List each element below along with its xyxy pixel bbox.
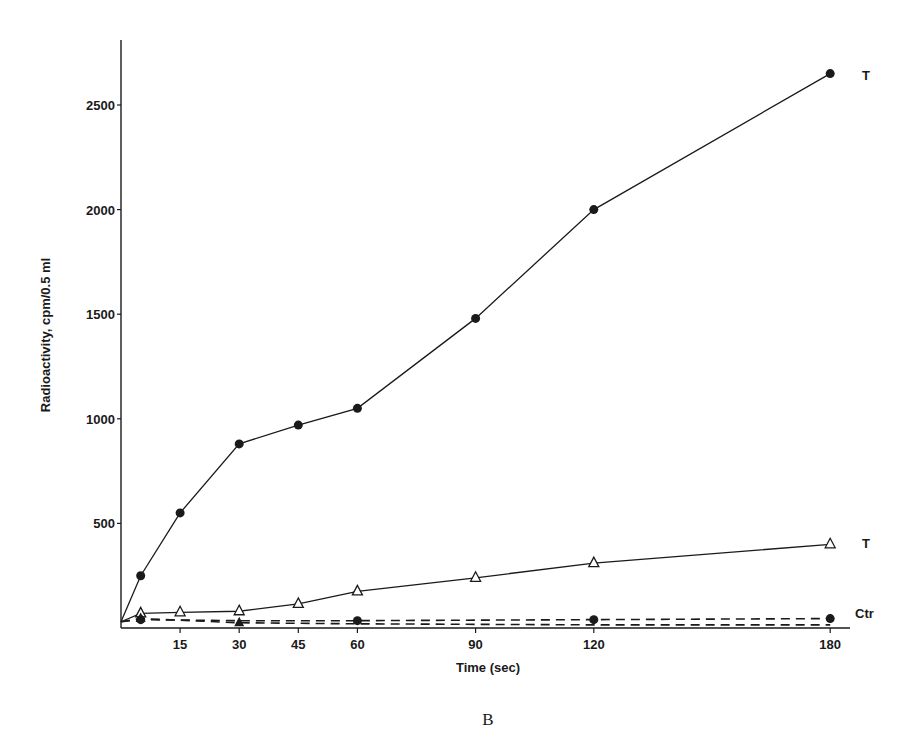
filled-circle-marker — [353, 404, 362, 413]
series-line — [121, 619, 830, 622]
filled-circle-marker — [136, 571, 145, 580]
open-triangle-marker — [352, 585, 362, 595]
open-triangle-marker — [589, 557, 599, 567]
series-2 — [121, 614, 835, 625]
filled-circle-marker — [589, 615, 598, 624]
y-tick-label: 1500 — [86, 307, 115, 322]
series-1 — [121, 538, 835, 621]
y-tick-label: 1000 — [86, 412, 115, 427]
filled-circle-marker — [235, 439, 244, 448]
filled-circle-marker — [589, 205, 598, 214]
line-chart: 50010001500200025001530456090120180Time … — [0, 0, 905, 746]
panel-label: B — [482, 710, 493, 729]
axes: 50010001500200025001530456090120180Time … — [38, 40, 850, 675]
series-0 — [121, 69, 835, 622]
series-line — [121, 544, 830, 621]
filled-circle-marker — [471, 314, 480, 323]
x-axis-title: Time (sec) — [456, 660, 520, 675]
y-tick-label: 2000 — [86, 203, 115, 218]
series-label-t-triangles: T — [862, 536, 870, 551]
filled-circle-marker — [176, 508, 185, 517]
filled-triangle-marker — [234, 617, 244, 627]
x-tick-label: 15 — [173, 637, 187, 652]
x-tick-label: 60 — [350, 637, 364, 652]
series-label-t-circles: T — [862, 68, 870, 83]
x-tick-label: 45 — [291, 637, 305, 652]
y-tick-label: 2500 — [86, 98, 115, 113]
series-label-ctr: Ctr — [855, 606, 874, 621]
y-tick-label: 500 — [93, 516, 115, 531]
x-tick-label: 180 — [819, 637, 841, 652]
open-triangle-marker — [471, 572, 481, 582]
filled-circle-marker — [826, 614, 835, 623]
open-triangle-marker — [175, 606, 185, 616]
open-triangle-marker — [234, 605, 244, 615]
series-layer — [121, 69, 835, 626]
open-triangle-marker — [825, 538, 835, 548]
x-tick-label: 90 — [468, 637, 482, 652]
x-tick-label: 120 — [583, 637, 605, 652]
filled-circle-marker — [294, 421, 303, 430]
series-line — [121, 74, 830, 622]
labels-layer: TTCtr — [855, 68, 874, 621]
x-tick-label: 30 — [232, 637, 246, 652]
filled-circle-marker — [826, 69, 835, 78]
y-axis-title: Radioactivity, cpm/0.5 ml — [38, 258, 53, 412]
